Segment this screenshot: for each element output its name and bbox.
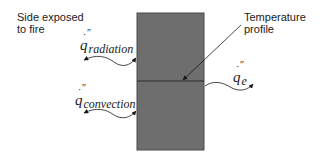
flux-subscript: e [242,74,247,88]
temperature-profile-label: Temperature profile [244,11,306,35]
convection-flux-label: · ″ qconvection [75,91,135,109]
flux-subscript: radiation [89,42,134,56]
flux-symbol: q [80,37,88,53]
flux-symbol: q [75,92,83,108]
flux-subscript: convection [84,97,136,111]
flux-symbol: q [233,69,241,85]
side-exposed-label: Side exposed to fire [17,11,84,35]
radiation-flux-label: · ″ qradiation [80,36,133,54]
exit-flux-label: · ″ qe [233,68,247,86]
radiation-arrow [84,56,136,65]
